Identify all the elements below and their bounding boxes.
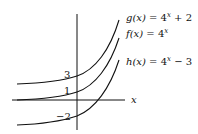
label-f: f(x) = 4x bbox=[125, 27, 168, 39]
intercept-label-g: 3 bbox=[64, 69, 70, 80]
x-axis-label: x bbox=[131, 94, 137, 105]
intercept-label-f: 1 bbox=[64, 85, 70, 96]
label-h: h(x) = 4x − 3 bbox=[126, 55, 192, 67]
label-g: g(x) = 4x + 2 bbox=[126, 11, 192, 23]
exponential-graph: x 3 1 −2 g(x) = 4x + 2 f(x) = 4x h(x) = … bbox=[0, 0, 198, 134]
intercept-label-h: −2 bbox=[56, 111, 71, 122]
